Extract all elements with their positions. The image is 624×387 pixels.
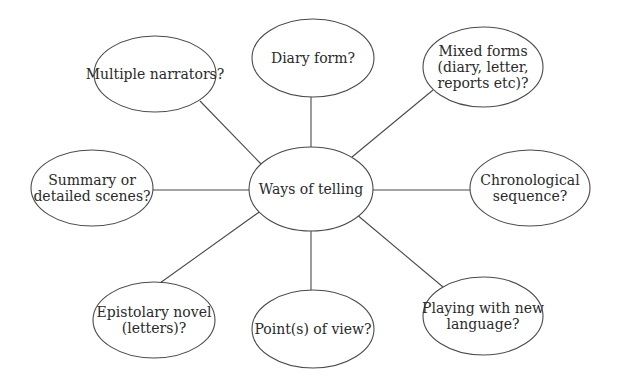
node-label-line: Playing with new xyxy=(422,300,544,316)
edge-playing-with-new-language xyxy=(356,214,443,287)
node-points-of-view: Point(s) of view? xyxy=(252,290,374,368)
node-label-line: (letters)? xyxy=(122,320,187,336)
node-label-line: Multiple narrators? xyxy=(86,66,225,82)
node-label-line: Ways of telling xyxy=(259,181,363,197)
center-node-ways-of-telling: Ways of telling xyxy=(249,147,373,231)
node-chronological-sequence: Chronologicalsequence? xyxy=(470,150,590,226)
topic-nodes: Ways of tellingDiary form?Mixed forms(di… xyxy=(31,19,590,368)
node-label-line: language? xyxy=(447,316,520,332)
node-label-line: Chronological xyxy=(480,172,580,188)
node-label-line: (diary, letter, xyxy=(438,59,529,75)
node-label-line: Summary or xyxy=(48,172,136,188)
edge-multiple-narrators xyxy=(200,101,262,165)
node-summary-or-detailed-scenes: Summary ordetailed scenes? xyxy=(31,150,153,226)
node-label-line: Point(s) of view? xyxy=(254,321,371,337)
node-label-line: Epistolary novel xyxy=(97,304,212,320)
edge-mixed-forms xyxy=(352,90,433,157)
node-epistolary-novel: Epistolary novel(letters)? xyxy=(93,282,215,358)
node-diary-form: Diary form? xyxy=(252,19,374,97)
node-label-line: Diary form? xyxy=(271,50,355,66)
node-label-line: Mixed forms xyxy=(438,43,527,59)
node-playing-with-new-language: Playing with newlanguage? xyxy=(422,277,544,355)
node-label-line: detailed scenes? xyxy=(33,188,150,204)
edge-epistolary-novel xyxy=(160,210,262,283)
node-label-line: sequence? xyxy=(493,188,567,204)
node-mixed-forms: Mixed forms(diary, letter,reports etc)? xyxy=(423,27,543,107)
node-multiple-narrators: Multiple narrators? xyxy=(86,36,225,112)
node-label-line: reports etc)? xyxy=(437,75,528,91)
mind-map-diagram: Ways of tellingDiary form?Mixed forms(di… xyxy=(0,0,624,387)
